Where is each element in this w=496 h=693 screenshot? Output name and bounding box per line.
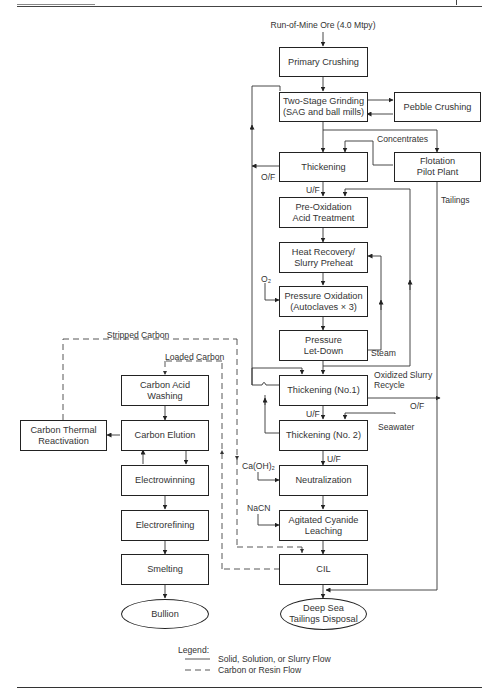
thick1-of-label: O/F bbox=[410, 401, 424, 411]
preox-label-line2: Acid Treatment bbox=[293, 213, 355, 224]
thick1-label: Thickening (No.1) bbox=[287, 385, 360, 396]
pox-label-line2: (Autoclaves × 3) bbox=[290, 302, 357, 313]
heat-recovery-box: Heat Recovery/ Slurry Preheat bbox=[279, 242, 368, 273]
legend-solid-label: Solid, Solution, or Slurry Flow bbox=[218, 654, 331, 664]
legend-title: Legend: bbox=[178, 645, 209, 655]
letdown-label-line2: Let-Down bbox=[304, 346, 343, 357]
carbon-acid-washing-box: Carbon Acid Washing bbox=[121, 375, 209, 406]
ore-input-label: Run-of-Mine Ore (4.0 Mtpy) bbox=[270, 20, 375, 30]
leach-label-line2: Leaching bbox=[305, 526, 342, 537]
stripped-carbon-label: Stripped Carbon bbox=[107, 330, 170, 340]
concentrates-label: Concentrates bbox=[377, 134, 428, 144]
cyanide-leaching-box: Agitated Cyanide Leaching bbox=[279, 510, 368, 541]
steam-label: Steam bbox=[371, 348, 396, 358]
cil-box: CIL bbox=[279, 554, 368, 585]
preox-label-line1: Pre-Oxidation bbox=[295, 202, 351, 213]
electrorefining-box: Electrorefining bbox=[121, 510, 209, 541]
thickening-box: Thickening bbox=[279, 152, 368, 182]
flotation-pilot-plant-box: Flotation Pilot Plant bbox=[394, 152, 481, 182]
thickening-no2-box: Thickening (No. 2) bbox=[279, 420, 368, 451]
deep-sea-disposal-oval: Deep Sea Tailings Disposal bbox=[280, 598, 367, 630]
thickening-label: Thickening bbox=[301, 162, 345, 173]
disposal-label-line2: Tailings Disposal bbox=[289, 614, 357, 625]
cil-label: CIL bbox=[316, 564, 330, 575]
smelting-box: Smelting bbox=[121, 554, 209, 585]
neutralization-label: Neutralization bbox=[295, 475, 351, 486]
seawater-label: Seawater bbox=[378, 422, 414, 432]
primary-crushing-box: Primary Crushing bbox=[279, 47, 368, 77]
o2-label: O₂ bbox=[261, 274, 271, 284]
pox-label-line1: Pressure Oxidation bbox=[284, 291, 362, 302]
smelting-label: Smelting bbox=[147, 564, 183, 575]
tailings-label: Tailings bbox=[441, 195, 470, 205]
electrowinning-box: Electrowinning bbox=[121, 465, 209, 496]
oxidized-slurry-label-line1: Oxidized Slurry bbox=[374, 370, 432, 380]
pre-oxidation-box: Pre-Oxidation Acid Treatment bbox=[279, 197, 368, 228]
thickening-no1-box: Thickening (No.1) bbox=[279, 375, 368, 406]
electrowinning-label: Electrowinning bbox=[135, 475, 195, 486]
elution-label: Carbon Elution bbox=[135, 430, 196, 441]
carbon-elution-box: Carbon Elution bbox=[121, 420, 209, 451]
acid-wash-label-line2: Washing bbox=[147, 391, 182, 402]
pressure-let-down-box: Pressure Let-Down bbox=[279, 330, 368, 361]
pebble-crushing-label: Pebble Crushing bbox=[404, 102, 472, 113]
heat-label-line2: Slurry Preheat bbox=[294, 258, 353, 269]
grinding-label-line2: (SAG and ball mills) bbox=[283, 107, 364, 118]
thickening-uf-label: U/F bbox=[306, 185, 320, 195]
thick2-label: Thickening (No. 2) bbox=[286, 430, 361, 441]
nacn-label: NaCN bbox=[247, 503, 270, 513]
thickening-of-label: O/F bbox=[261, 172, 275, 182]
caoh2-label: Ca(OH)₂ bbox=[242, 461, 275, 471]
pressure-oxidation-box: Pressure Oxidation (Autoclaves × 3) bbox=[279, 286, 368, 317]
flotation-label-line1: Flotation bbox=[420, 156, 455, 167]
carbon-reactivation-box: Carbon Thermal Reactivation bbox=[20, 420, 107, 451]
pebble-crushing-box: Pebble Crushing bbox=[394, 92, 481, 122]
neutralization-box: Neutralization bbox=[279, 465, 368, 496]
letdown-label-line1: Pressure bbox=[305, 335, 342, 346]
grinding-box: Two-Stage Grinding (SAG and ball mills) bbox=[279, 92, 368, 122]
loaded-carbon-label: Loaded Carbon bbox=[165, 352, 224, 362]
electrorefining-label: Electrorefining bbox=[136, 520, 195, 531]
flowsheet-diagram: Run-of-Mine Ore (4.0 Mtpy) Primary Crush… bbox=[0, 0, 496, 693]
disposal-label-line1: Deep Sea bbox=[303, 603, 344, 614]
oxidized-slurry-label-line2: Recycle bbox=[374, 380, 405, 390]
thick1-uf-label: U/F bbox=[306, 409, 320, 419]
bullion-label: Bullion bbox=[151, 609, 179, 620]
bottom-rule bbox=[17, 687, 482, 688]
bullion-oval: Bullion bbox=[121, 599, 209, 629]
legend-dashed-label: Carbon or Resin Flow bbox=[218, 665, 301, 675]
flotation-label-line2: Pilot Plant bbox=[417, 167, 458, 178]
primary-crushing-label: Primary Crushing bbox=[288, 57, 359, 68]
thick2-uf-label: U/F bbox=[327, 454, 341, 464]
reactivation-label-line1: Carbon Thermal bbox=[30, 425, 96, 436]
grinding-label-line1: Two-Stage Grinding bbox=[283, 96, 364, 107]
leach-label-line1: Agitated Cyanide bbox=[289, 515, 359, 526]
acid-wash-label-line1: Carbon Acid bbox=[140, 380, 190, 391]
reactivation-label-line2: Reactivation bbox=[38, 436, 89, 447]
heat-label-line1: Heat Recovery/ bbox=[292, 247, 355, 258]
